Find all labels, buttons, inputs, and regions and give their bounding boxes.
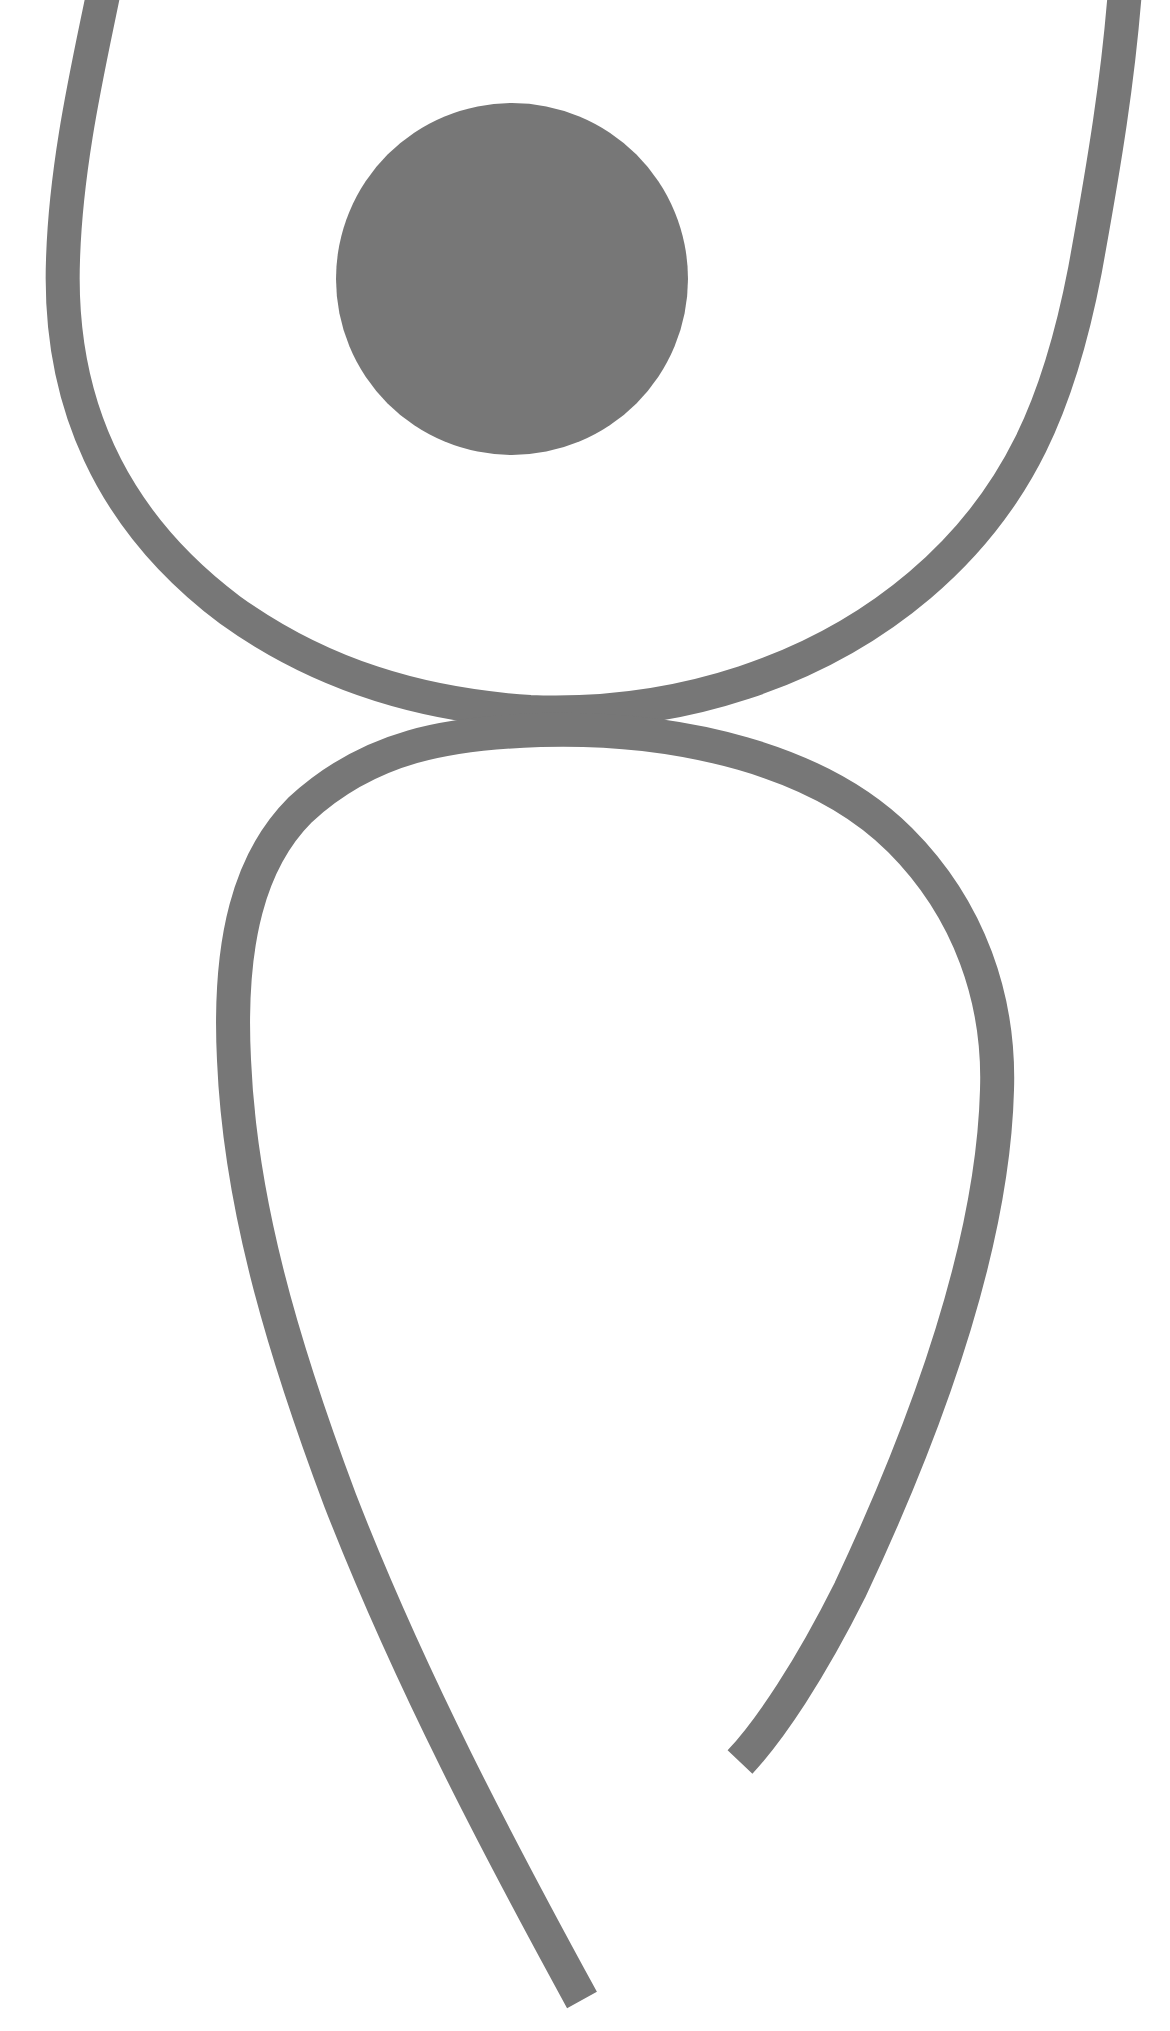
abstract-figure-graphic bbox=[0, 0, 1170, 2031]
figure-head-circle bbox=[336, 103, 688, 455]
figure-lower-loop bbox=[233, 730, 997, 2000]
illustration-canvas bbox=[0, 0, 1170, 2031]
